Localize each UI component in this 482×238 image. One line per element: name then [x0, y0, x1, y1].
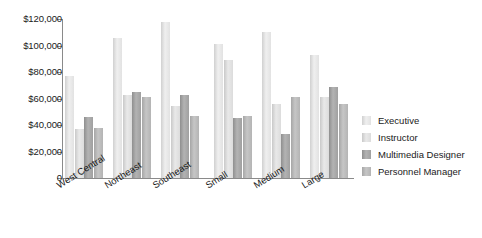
- y-axis-tick-label: $100,000: [8, 41, 62, 51]
- chart-legend: ExecutiveInstructorMultimedia DesignerPe…: [362, 112, 465, 180]
- bar-chart: $120,000$100,000$80,000$60,000$40,000$20…: [0, 0, 482, 238]
- y-axis-tick-label: $60,000: [8, 94, 62, 104]
- y-axis-tick-label: $80,000: [8, 67, 62, 77]
- bar: [142, 97, 151, 178]
- legend-swatch-icon: [362, 167, 371, 176]
- plot-area: [62, 19, 352, 178]
- legend-item: Instructor: [362, 129, 465, 146]
- bar: [224, 60, 233, 178]
- y-axis-tick-label: $120,000: [8, 14, 62, 24]
- bar: [243, 116, 252, 178]
- y-axis-tick-label: $20,000: [8, 147, 62, 157]
- bar: [329, 87, 338, 178]
- bar: [320, 97, 329, 178]
- legend-item-label: Instructor: [378, 133, 418, 143]
- legend-item-label: Personnel Manager: [378, 167, 461, 177]
- legend-item-label: Executive: [378, 116, 419, 126]
- legend-item: Multimedia Designer: [362, 146, 465, 163]
- bar: [233, 118, 242, 178]
- legend-swatch-icon: [362, 116, 371, 125]
- bar-group: [262, 19, 302, 178]
- legend-item: Personnel Manager: [362, 163, 465, 180]
- bar: [339, 104, 348, 178]
- legend-swatch-icon: [362, 133, 371, 142]
- bar: [65, 76, 74, 178]
- bar: [214, 44, 223, 178]
- legend-item-label: Multimedia Designer: [378, 150, 465, 160]
- legend-item: Executive: [362, 112, 465, 129]
- bar: [161, 22, 170, 178]
- bar-group: [113, 19, 153, 178]
- bar-group: [214, 19, 254, 178]
- legend-swatch-icon: [362, 150, 371, 159]
- y-axis-tick-label: $40,000: [8, 120, 62, 130]
- bar: [262, 32, 271, 178]
- bar: [310, 55, 319, 178]
- bar-group: [310, 19, 350, 178]
- bar: [291, 97, 300, 178]
- bar: [113, 38, 122, 178]
- bar-group: [161, 19, 201, 178]
